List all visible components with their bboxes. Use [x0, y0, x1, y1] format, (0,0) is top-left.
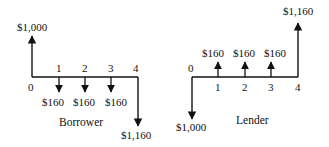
borrower-flow-label-0: $1,000 — [17, 21, 48, 33]
lender-period-3: 3 — [268, 81, 274, 93]
borrower-flow-label-2: $160 — [73, 96, 96, 108]
borrower-period-0: 0 — [28, 81, 34, 93]
borrower-period-1: 1 — [56, 62, 62, 74]
cash-flow-diagrams: $1,000 0 1 $160 2 $160 3 $160 4 $1,160 B… — [0, 0, 329, 147]
lender-caption: Lender — [236, 114, 269, 126]
borrower-diagram: $1,000 0 1 $160 2 $160 3 $160 4 $1,160 B… — [17, 21, 152, 141]
lender-diagram: 0 $1,000 $160 1 $160 2 $160 3 $1,160 4 L… — [176, 5, 314, 133]
lender-flow-label-4: $1,160 — [283, 5, 314, 17]
lender-flow-label-2: $160 — [233, 47, 256, 59]
borrower-flow-label-4: $1,160 — [121, 129, 152, 141]
borrower-period-4: 4 — [133, 62, 139, 74]
borrower-caption: Borrower — [59, 116, 103, 128]
lender-period-0: 0 — [188, 62, 194, 74]
lender-period-1: 1 — [215, 81, 221, 93]
lender-flow-label-3: $160 — [264, 47, 287, 59]
borrower-period-2: 2 — [82, 62, 88, 74]
lender-flow-label-1: $160 — [202, 47, 225, 59]
borrower-period-3: 3 — [108, 62, 114, 74]
borrower-flow-label-3: $160 — [105, 96, 128, 108]
lender-period-4: 4 — [295, 81, 301, 93]
borrower-flow-label-1: $160 — [42, 96, 65, 108]
lender-flow-label-0: $1,000 — [176, 121, 207, 133]
lender-period-2: 2 — [242, 81, 248, 93]
